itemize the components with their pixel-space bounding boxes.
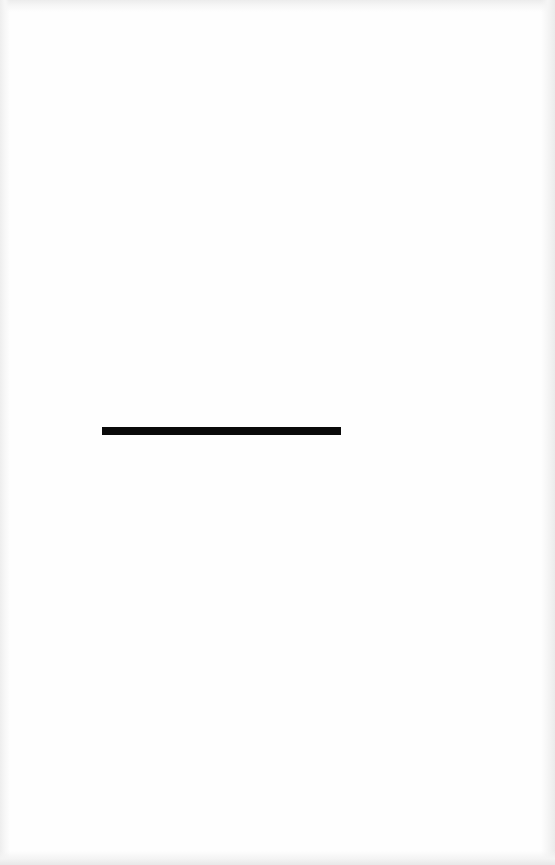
scan-edge-top [0, 0, 555, 12]
scan-edge-bottom [0, 851, 555, 865]
horizontal-rule [102, 427, 341, 435]
scan-edge-left [0, 0, 10, 865]
scan-edge-right [541, 0, 555, 865]
scanned-page [0, 0, 555, 865]
